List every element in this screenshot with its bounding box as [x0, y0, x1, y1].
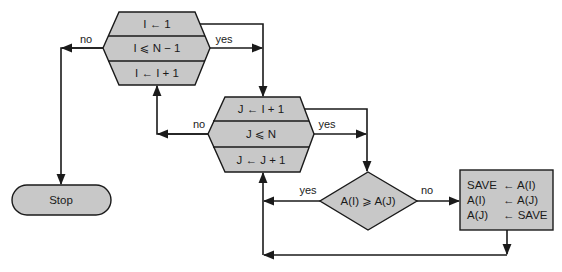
- outer-loop-hexagon[interactable]: I ← 1 I ⩽ N − 1 I ← I + 1: [103, 12, 210, 85]
- connector-inner-init-to-decision: [305, 109, 367, 171]
- connector-outer-no-to-stop: [61, 48, 103, 184]
- compare-decision-diamond[interactable]: A(I) ⩾ A(J): [320, 172, 417, 230]
- inner-loop-hexagon[interactable]: J ← I + 1 J ⩽ N J ← J + 1: [208, 97, 314, 172]
- flowchart: I ← 1 I ⩽ N − 1 I ← I + 1 no yes J ← I +…: [0, 0, 562, 272]
- inner-no-label: no: [193, 118, 205, 130]
- swap-line-1-right: ← A(I): [503, 179, 536, 191]
- decision-text: A(I) ⩾ A(J): [341, 195, 396, 207]
- inner-test-text: J ⩽ N: [246, 128, 276, 140]
- swap-line-3-left: A(J): [467, 209, 488, 221]
- stop-text: Stop: [49, 194, 73, 206]
- inner-init-text: J ← I + 1: [238, 103, 284, 115]
- outer-test-text: I ⩽ N − 1: [133, 42, 180, 54]
- decision-yes-label: yes: [299, 184, 317, 196]
- swap-line-3-right: ← SAVE: [503, 209, 548, 221]
- inner-increment-text: J ← J + 1: [237, 154, 286, 166]
- outer-no-label: no: [80, 33, 92, 45]
- outer-init-text: I ← 1: [143, 18, 170, 30]
- outer-increment-text: I ← I + 1: [135, 67, 179, 79]
- outer-yes-label: yes: [215, 33, 233, 45]
- swap-line-1-left: SAVE: [467, 179, 497, 191]
- stop-terminal[interactable]: Stop: [12, 185, 111, 215]
- swap-line-2-right: ← A(J): [503, 194, 538, 206]
- decision-no-label: no: [421, 184, 433, 196]
- swap-line-2-left: A(I): [467, 194, 486, 206]
- inner-yes-label: yes: [318, 118, 336, 130]
- swap-process-box[interactable]: SAVE ← A(I) A(I) ← A(J) A(J) ← SAVE: [460, 170, 553, 230]
